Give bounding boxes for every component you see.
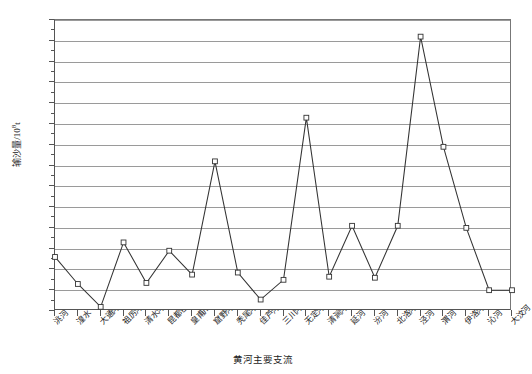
plot-area [54,19,511,310]
data-series-line [55,20,512,311]
data-point-marker [53,255,58,260]
data-point-marker [258,297,263,302]
data-point-marker [350,223,355,228]
data-point-marker [373,275,378,280]
data-point-marker [281,277,286,282]
x-axis-title: 黄河主要支流 [0,352,526,366]
y-axis-title-exponent: 8 [10,125,18,129]
data-point-marker [441,144,446,149]
data-point-marker [144,281,149,286]
data-point-marker [487,288,492,293]
data-point-marker [235,270,240,275]
data-point-marker [327,274,332,279]
data-point-marker [213,159,218,164]
data-point-marker [510,288,515,293]
data-point-marker [121,240,126,245]
data-point-marker [395,223,400,228]
y-axis-title-unit: t [12,122,22,125]
data-point-marker [190,272,195,277]
y-axis-title-text: 输沙量/10 [12,128,22,167]
series-polyline [55,37,512,307]
y-axis-title: 输沙量/108t [10,95,23,195]
data-point-marker [98,304,103,309]
data-point-marker [418,34,423,39]
data-point-marker [464,225,469,230]
data-point-marker [75,282,80,287]
data-point-marker [304,115,309,120]
data-point-marker [167,248,172,253]
